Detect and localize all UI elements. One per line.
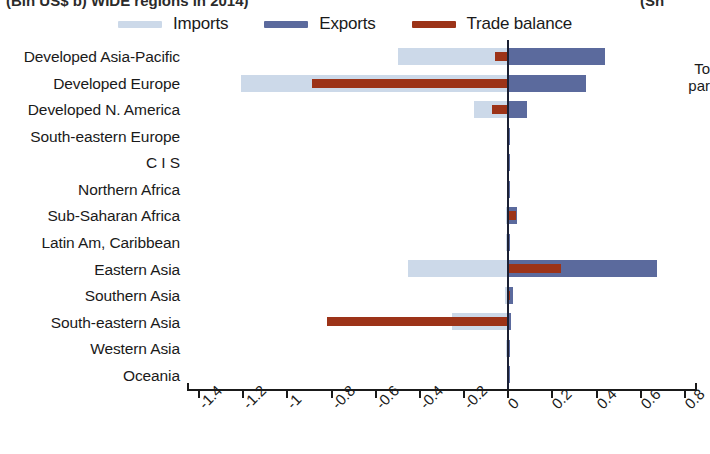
bar-trade-balance [508,264,561,273]
bar-exports [508,75,585,92]
bar-row: Northern Africa [188,177,696,204]
bar-trade-balance [492,105,509,114]
legend-imports[interactable]: Imports [118,14,228,34]
legend-trade-balance-swatch-icon [412,21,456,28]
secondary-panel-title: (Sh [640,0,664,9]
category-label: Developed Europe [53,75,180,93]
x-axis-end-cap [695,383,697,391]
bar-row: Developed N. America [188,97,696,124]
bar-trade-balance [327,317,508,326]
bar-imports [398,48,508,65]
legend-exports-swatch-icon [264,21,308,28]
bar-row: Oceania [188,362,696,389]
plot-area: Developed Asia-PacificDeveloped EuropeDe… [188,44,696,389]
category-label: Southern Asia [85,287,180,305]
category-label: South-eastern Europe [30,128,180,146]
legend-trade-balance-label: Trade balance [467,14,572,34]
category-label: Developed Asia-Pacific [24,48,180,66]
bar-trade-balance [495,52,508,61]
bar-imports [408,260,508,277]
bar-row: Western Asia [188,336,696,363]
legend-imports-swatch-icon [118,21,162,28]
category-label: Latin Am, Caribbean [41,234,180,252]
category-label: Oceania [123,367,180,385]
bar-row: C I S [188,150,696,177]
legend-trade-balance[interactable]: Trade balance [412,14,572,34]
bar-row: Developed Asia-Pacific [188,44,696,71]
category-label: C I S [146,154,180,172]
category-label: Eastern Asia [94,261,180,279]
zero-axis-line [507,40,509,389]
bar-exports [508,48,605,65]
bar-rows: Developed Asia-PacificDeveloped EuropeDe… [188,44,696,389]
bar-row: Eastern Asia [188,256,696,283]
category-label: South-eastern Asia [51,314,180,332]
bar-row: South-eastern Europe [188,124,696,151]
legend-imports-label: Imports [173,14,228,34]
legend-exports-label: Exports [319,14,375,34]
category-label: Sub-Saharan Africa [47,207,180,225]
x-axis-tick-label: 0 [504,394,522,412]
legend-exports[interactable]: Exports [264,14,375,34]
page-title: (Bln US$ b) WIDE regions in 2014) [6,0,249,9]
bar-row: Developed Europe [188,71,696,98]
category-label: Developed N. America [28,101,180,119]
chart-legend: ImportsExportsTrade balance [118,14,572,34]
bar-row: South-eastern Asia [188,309,696,336]
bar-row: Sub-Saharan Africa [188,203,696,230]
x-axis-end-cap [187,383,189,391]
category-label: Northern Africa [78,181,180,199]
bar-trade-balance [312,79,509,88]
title-clipped-strip: (Bln US$ b) WIDE regions in 2014) (Sh [0,0,710,10]
bar-exports [508,101,527,118]
chart-root: (Bln US$ b) WIDE regions in 2014) (Sh Im… [0,0,710,454]
bar-row: Latin Am, Caribbean [188,230,696,257]
bar-row: Southern Asia [188,283,696,310]
bar-trade-balance [508,211,515,220]
category-label: Western Asia [90,340,180,358]
